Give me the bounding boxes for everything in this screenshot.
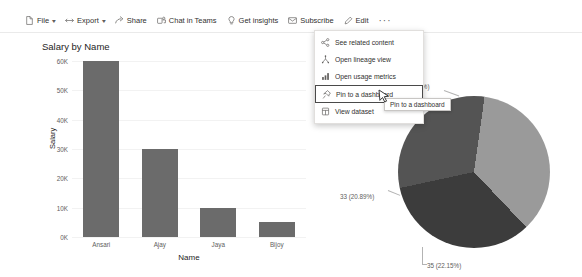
mouse-cursor (378, 89, 390, 103)
toolbar-item-share[interactable]: Share (110, 8, 152, 32)
bar-chart-title: Salary by Name (42, 41, 110, 52)
toolbar-item-edit[interactable]: Edit (339, 8, 374, 32)
bar-chart-bar[interactable] (142, 149, 178, 237)
menu-item-see-related-content[interactable]: See related content (315, 34, 423, 51)
toolbar-item-label: Chat in Teams (169, 16, 217, 25)
pin-to-dashboard-tooltip: Pin to a dashboard (384, 98, 451, 111)
bar-chart-y-tick: 60K (57, 58, 68, 65)
menu-item-open-usage-metrics[interactable]: Open usage metrics (315, 68, 423, 85)
share-network-icon (321, 38, 330, 47)
toolbar-item-file[interactable]: File ▾ (20, 8, 60, 32)
toolbar-item-subscribe[interactable]: Subscribe (283, 8, 338, 32)
pie-slice-label-2: 35 (22.15%) (427, 262, 461, 269)
toolbar-item-label: Export (77, 16, 99, 25)
toolbar-item-label: Edit (356, 16, 369, 25)
envelope-icon (288, 16, 297, 25)
bar-chart-x-tick: Jaya (212, 241, 225, 248)
menu-item-label: Open lineage view (335, 56, 391, 63)
bar-chart-y-tick: 0K (60, 234, 68, 241)
bar-chart-x-tick: Bijoy (270, 241, 284, 248)
bar-chart-plot-area: 0K10K20K30K40K50K60KAnsariAjayJayaBijoy (72, 61, 306, 237)
share-icon (115, 16, 124, 25)
lightbulb-icon (227, 16, 236, 25)
chevron-down-icon: ▾ (52, 17, 56, 24)
toolbar-item-label: Share (127, 16, 147, 25)
chevron-down-icon: ▾ (101, 17, 105, 24)
export-icon (65, 16, 74, 25)
bar-chart-visual[interactable]: Salary by Name Salary 0K10K20K30K40K50K6… (22, 41, 307, 273)
menu-item-label: View dataset (335, 108, 374, 115)
pie-slice-label-1: 33 (20.89%) (340, 193, 374, 200)
file-icon (25, 16, 34, 25)
dataset-icon (321, 107, 330, 116)
menu-item-open-lineage-view[interactable]: Open lineage view (315, 51, 423, 68)
pie-leader-line-1 (388, 190, 400, 196)
pin-icon (322, 90, 331, 99)
bar-chart-gridline (72, 237, 306, 238)
teams-icon (157, 16, 166, 25)
bar-chart-bar[interactable] (200, 208, 236, 237)
bar-chart-y-tick: 10K (57, 204, 68, 211)
toolbar-overflow-button[interactable]: ··· (374, 8, 397, 32)
toolbar-item-export[interactable]: Export ▾ (60, 8, 110, 32)
bar-chart-y-tick: 20K (57, 175, 68, 182)
bar-chart-icon (321, 72, 330, 81)
report-canvas: Salary by Name Salary 0K10K20K30K40K50K6… (0, 33, 582, 277)
toolbar-item-label: Subscribe (300, 16, 333, 25)
bar-chart-bar[interactable] (83, 61, 119, 237)
pie-leader-line-3 (444, 90, 459, 96)
pie-leader-line-2 (422, 247, 423, 265)
toolbar-item-get-insights[interactable]: Get insights (222, 8, 284, 32)
report-toolbar: File ▾ Export ▾ Share Chat in Teams Get … (0, 8, 582, 33)
bar-chart-y-tick: 40K (57, 116, 68, 123)
bar-chart-x-tick: Ajay (154, 241, 166, 248)
menu-item-label: Open usage metrics (335, 73, 396, 80)
bar-chart-y-tick: 30K (57, 146, 68, 153)
pencil-icon (344, 16, 353, 25)
toolbar-item-label: Get insights (239, 16, 279, 25)
toolbar-item-chat-in-teams[interactable]: Chat in Teams (152, 8, 222, 32)
bar-chart-y-axis-label: Salary (48, 128, 57, 149)
menu-item-label: See related content (335, 39, 394, 46)
bar-chart-bar[interactable] (259, 222, 295, 237)
pie-leader-line-2b (422, 264, 427, 265)
bar-chart-x-axis-label: Name (178, 253, 199, 262)
bar-chart-x-tick: Ansari (92, 241, 110, 248)
toolbar-item-label: File (37, 16, 49, 25)
lineage-icon (321, 55, 330, 64)
bar-chart-y-tick: 50K (57, 87, 68, 94)
